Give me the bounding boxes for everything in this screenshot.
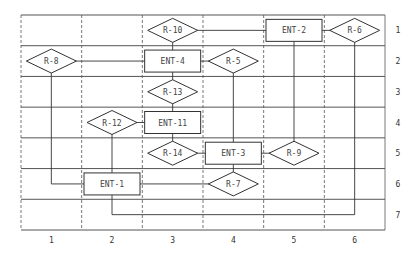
column-label: 5: [292, 236, 297, 245]
relationship-diamond[interactable]: R-7: [208, 172, 258, 196]
entity-box[interactable]: ENT-3: [205, 142, 261, 164]
relationship-diamond[interactable]: R-12: [87, 111, 137, 135]
relationship-label: R-7: [226, 180, 241, 189]
entity-box[interactable]: ENT-2: [266, 19, 322, 41]
entity-label: ENT-1: [100, 180, 124, 189]
row-label: 4: [396, 119, 401, 128]
er-diagram-canvas: ENT-2ENT-4ENT-11ENT-3ENT-1R-10R-6R-8R-5R…: [0, 0, 420, 254]
relationship-diamond[interactable]: R-8: [26, 49, 76, 73]
relationship-label: R-6: [347, 26, 362, 35]
relationship-label: R-8: [44, 57, 59, 66]
relationship-diamond[interactable]: R-9: [269, 141, 319, 165]
row-label: 7: [396, 211, 401, 220]
relationship-diamond[interactable]: R-14: [148, 141, 198, 165]
relationship-label: R-5: [226, 57, 241, 66]
column-label: 6: [352, 236, 357, 245]
entity-box[interactable]: ENT-4: [145, 50, 201, 72]
row-label: 1: [396, 26, 401, 35]
relationship-diamond[interactable]: R-6: [330, 18, 380, 42]
relationship-label: R-14: [163, 149, 182, 158]
row-label: 5: [396, 149, 401, 158]
relationship-label: R-13: [163, 88, 182, 97]
entity-label: ENT-11: [158, 119, 187, 128]
column-label: 4: [231, 236, 236, 245]
row-label: 3: [396, 88, 401, 97]
row-label: 2: [396, 57, 401, 66]
entity-label: ENT-4: [161, 57, 185, 66]
grid: [21, 15, 385, 230]
relationship-label: R-12: [102, 119, 121, 128]
column-label: 2: [110, 236, 115, 245]
relationship-diamond[interactable]: R-5: [208, 49, 258, 73]
entity-box[interactable]: ENT-1: [84, 173, 140, 195]
column-label: 1: [49, 236, 54, 245]
column-label: 3: [170, 236, 175, 245]
relationship-label: R-10: [163, 26, 182, 35]
entity-box[interactable]: ENT-11: [145, 112, 201, 134]
relationship-diamond[interactable]: R-13: [148, 80, 198, 104]
relationship-label: R-9: [287, 149, 302, 158]
entity-label: ENT-3: [221, 149, 245, 158]
row-label: 6: [396, 180, 401, 189]
entity-label: ENT-2: [282, 26, 306, 35]
relationship-diamond[interactable]: R-10: [148, 18, 198, 42]
